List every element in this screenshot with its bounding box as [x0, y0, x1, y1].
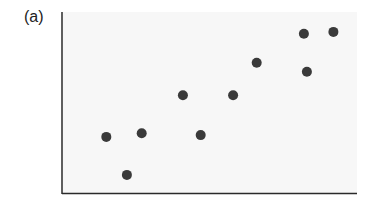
data-point — [299, 29, 309, 39]
data-point — [196, 130, 206, 140]
data-point — [252, 58, 262, 68]
data-point — [101, 132, 111, 142]
scatter-chart — [0, 0, 377, 210]
data-point — [302, 67, 312, 77]
data-point — [328, 27, 338, 37]
data-point — [137, 128, 147, 138]
data-point — [178, 90, 188, 100]
data-point — [228, 90, 238, 100]
data-point — [122, 170, 132, 180]
data-points — [101, 27, 338, 180]
